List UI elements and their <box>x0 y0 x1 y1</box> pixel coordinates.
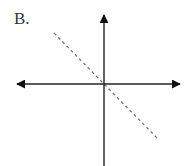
dashed-line <box>54 33 157 138</box>
coordinate-diagram <box>0 0 191 166</box>
